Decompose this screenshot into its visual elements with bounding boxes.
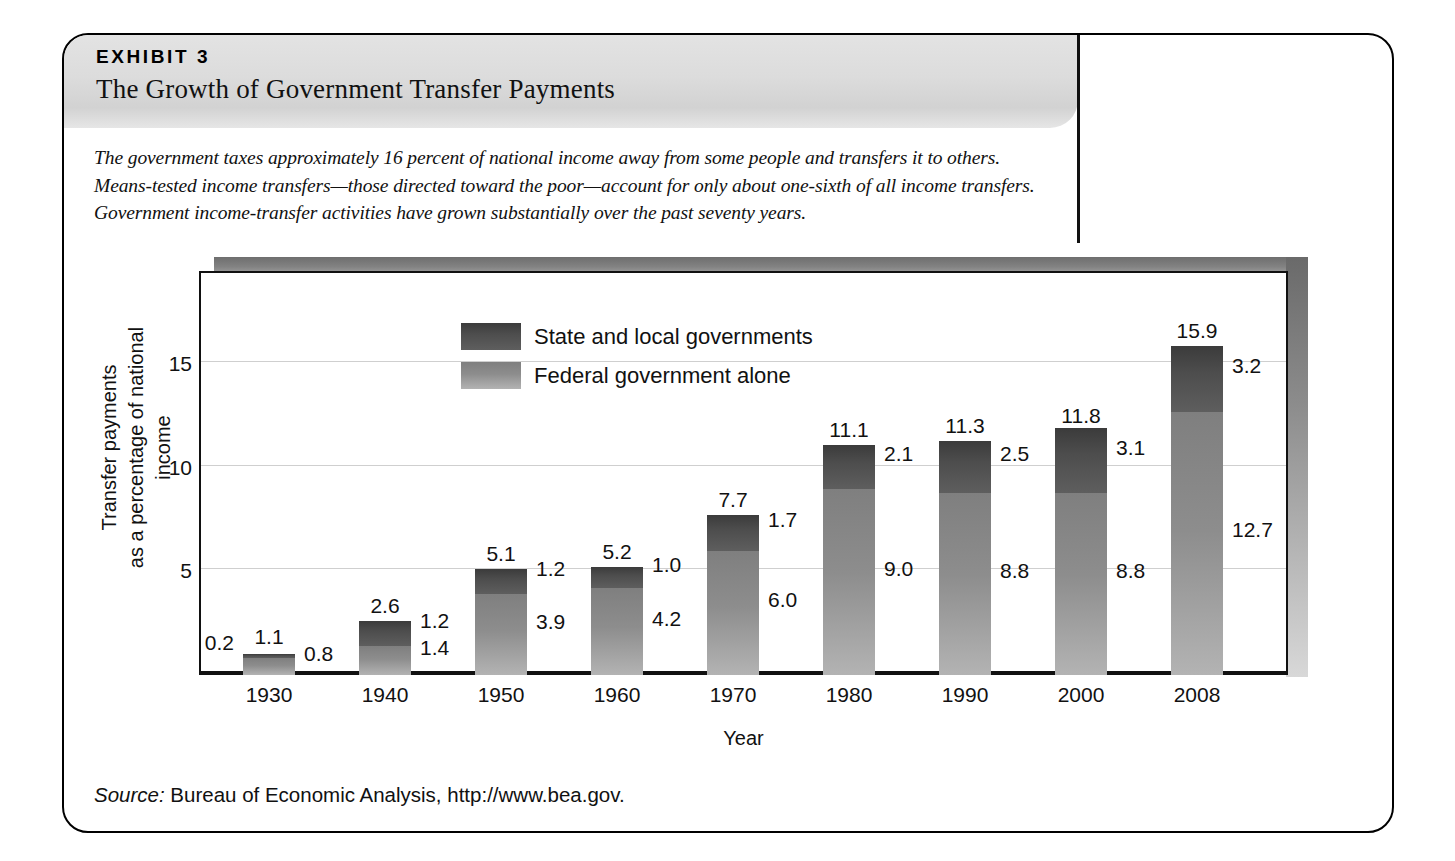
bar-federal-label-1940: 1.4 [420,636,449,660]
exhibit-header: EXHIBIT 3 The Growth of Government Trans… [64,35,1078,128]
bar-segment-state-local-2008[interactable] [1171,346,1223,412]
x-tick-label-1950: 1950 [478,683,525,707]
bar-group-1980[interactable]: 11.12.19.0 [823,445,875,675]
source-line: Source: Bureau of Economic Analysis, htt… [94,783,625,807]
bar-segment-federal-1980[interactable] [823,489,875,675]
bar-group-1940[interactable]: 2.61.21.4 [359,621,411,675]
bar-segment-federal-2008[interactable] [1171,412,1223,675]
bar-federal-label-1970: 6.0 [768,588,797,612]
y-axis-title: Transfer payments as a percentage of nat… [96,298,177,598]
source-label: Source: [94,783,165,806]
bar-segment-state-local-1940[interactable] [359,621,411,646]
bar-federal-label-1950: 3.9 [536,610,565,634]
bar-segment-state-local-1930[interactable] [243,654,295,658]
plot-shadow-right [1286,257,1308,677]
bar-total-label-1960: 5.2 [602,540,631,564]
exhibit-title: The Growth of Government Transfer Paymen… [96,74,1078,105]
bar-federal-label-1930: 0.8 [304,642,333,666]
bar-total-label-1930: 1.1 [254,625,283,649]
x-axis-ticks: 193019401950196019701980199020002008 [199,683,1288,717]
bar-segment-state-local-1970[interactable] [707,515,759,550]
bar-group-1990[interactable]: 11.32.58.8 [939,441,991,675]
bar-state-local-label-2008: 3.2 [1232,354,1261,378]
y-axis-title-line2: as a percentage of national income [125,327,174,568]
exhibit-card: EXHIBIT 3 The Growth of Government Trans… [62,33,1394,833]
bar-segment-state-local-1960[interactable] [591,567,643,588]
bar-state-local-label-1940: 1.2 [420,609,449,633]
bar-segment-federal-1930[interactable] [243,658,295,675]
x-tick-label-1930: 1930 [246,683,293,707]
x-tick-label-1960: 1960 [594,683,641,707]
bar-state-local-label-1930: 0.2 [205,631,234,655]
x-tick-label-1940: 1940 [362,683,409,707]
bar-state-local-label-2000: 3.1 [1116,436,1145,460]
bar-segment-federal-1970[interactable] [707,551,759,675]
bar-segment-federal-2000[interactable] [1055,493,1107,675]
bar-total-label-1980: 11.1 [829,418,868,442]
bar-group-2008[interactable]: 15.93.212.7 [1171,346,1223,675]
x-axis-title: Year [199,727,1288,750]
source-text: Bureau of Economic Analysis, http://www.… [165,783,625,806]
chart-area: State and local governments Federal gove… [64,257,1394,762]
bar-group-1950[interactable]: 5.11.23.9 [475,569,527,675]
x-tick-label-2008: 2008 [1174,683,1221,707]
bar-state-local-label-1960: 1.0 [652,553,681,577]
bar-federal-label-1960: 4.2 [652,607,681,631]
bar-federal-label-1980: 9.0 [884,557,913,581]
bar-segment-state-local-2000[interactable] [1055,428,1107,492]
bar-total-label-2000: 11.8 [1061,404,1100,428]
bar-segment-federal-1940[interactable] [359,646,411,675]
bar-segment-state-local-1950[interactable] [475,569,527,594]
bar-state-local-label-1980: 2.1 [884,442,913,466]
bar-total-label-1950: 5.1 [486,542,515,566]
bar-total-label-1990: 11.3 [945,414,984,438]
bar-state-local-label-1970: 1.7 [768,508,797,532]
bar-group-1960[interactable]: 5.21.04.2 [591,567,643,675]
bar-segment-federal-1960[interactable] [591,588,643,675]
y-axis-title-line1: Transfer payments [98,365,120,531]
bars-layer: 1.10.20.82.61.21.45.11.23.95.21.04.27.71… [199,271,1288,675]
header-divider-rule [1077,35,1080,243]
bar-total-label-1940: 2.6 [370,594,399,618]
x-tick-label-1980: 1980 [826,683,873,707]
bar-federal-label-1990: 8.8 [1000,559,1029,583]
bar-group-1930[interactable]: 1.10.20.8 [243,652,295,675]
bar-segment-state-local-1980[interactable] [823,445,875,489]
exhibit-kicker: EXHIBIT 3 [96,47,1078,68]
x-tick-label-2000: 2000 [1058,683,1105,707]
bar-federal-label-2008: 12.7 [1232,518,1273,542]
bar-segment-federal-1990[interactable] [939,493,991,675]
y-tick-label-5: 5 [180,559,192,583]
bar-group-1970[interactable]: 7.71.76.0 [707,515,759,675]
bar-group-2000[interactable]: 11.83.18.8 [1055,431,1107,675]
exhibit-caption: The government taxes approximately 16 pe… [94,144,1054,227]
bar-segment-state-local-1990[interactable] [939,441,991,493]
bar-segment-federal-1950[interactable] [475,594,527,675]
bar-state-local-label-1950: 1.2 [536,557,565,581]
bar-federal-label-2000: 8.8 [1116,559,1145,583]
bar-total-label-2008: 15.9 [1177,319,1218,343]
x-tick-label-1990: 1990 [942,683,989,707]
bar-state-local-label-1990: 2.5 [1000,442,1029,466]
bar-total-label-1970: 7.7 [718,488,747,512]
x-tick-label-1970: 1970 [710,683,757,707]
